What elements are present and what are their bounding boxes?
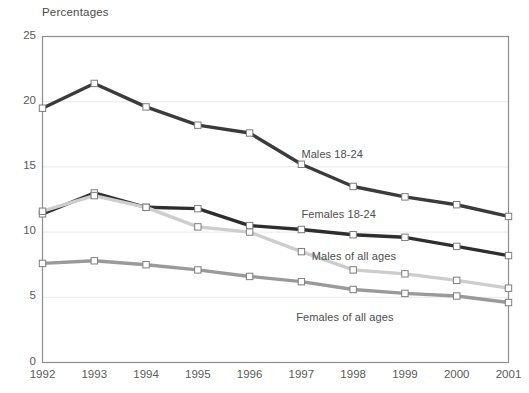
data-point-marker — [246, 229, 252, 235]
data-point-marker — [454, 293, 460, 299]
data-point-marker — [402, 194, 408, 200]
data-point-marker — [505, 213, 511, 219]
series-line-3 — [43, 261, 509, 303]
data-point-marker — [454, 277, 460, 283]
data-point-marker — [143, 104, 149, 110]
data-point-marker — [505, 299, 511, 305]
x-tick-label: 2000 — [444, 368, 470, 380]
data-point-marker — [195, 267, 201, 273]
x-tick-label: 1993 — [81, 368, 107, 380]
data-point-marker — [350, 232, 356, 238]
data-point-marker — [402, 290, 408, 296]
data-point-marker — [505, 252, 511, 258]
data-point-marker — [39, 260, 45, 266]
series-label-2: Males of all ages — [312, 250, 396, 262]
x-tick-label: 1999 — [392, 368, 418, 380]
x-tick-label: 1995 — [185, 368, 211, 380]
x-tick-label: 2001 — [496, 368, 522, 380]
data-point-marker — [91, 192, 97, 198]
x-tick-label: 1994 — [133, 368, 159, 380]
data-point-marker — [298, 161, 304, 167]
data-point-marker — [246, 222, 252, 228]
data-point-marker — [350, 267, 356, 273]
series-label-1: Females 18-24 — [301, 208, 376, 220]
x-tick-label: 1996 — [237, 368, 263, 380]
data-point-marker — [350, 183, 356, 189]
series-label-0: Males 18-24 — [301, 148, 363, 160]
chart-container: Percentages 0510152025 19921993199419951… — [0, 0, 529, 393]
data-point-marker — [402, 234, 408, 240]
y-tick-label: 15 — [2, 159, 36, 171]
data-point-marker — [195, 205, 201, 211]
x-tick-label: 1992 — [30, 368, 56, 380]
series-markers — [39, 80, 511, 305]
data-point-marker — [246, 130, 252, 136]
x-tick-label: 1998 — [340, 368, 366, 380]
data-point-marker — [91, 80, 97, 86]
data-point-marker — [195, 224, 201, 230]
data-point-marker — [39, 105, 45, 111]
data-point-marker — [91, 258, 97, 264]
data-point-marker — [246, 273, 252, 279]
series-lines — [43, 83, 509, 302]
series-label-3: Females of all ages — [296, 311, 393, 323]
x-tick-label: 1997 — [289, 368, 315, 380]
data-point-marker — [298, 278, 304, 284]
data-point-marker — [402, 271, 408, 277]
y-tick-label: 20 — [2, 94, 36, 106]
data-point-marker — [39, 208, 45, 214]
data-point-marker — [298, 226, 304, 232]
data-point-marker — [454, 202, 460, 208]
y-tick-label: 25 — [2, 29, 36, 41]
data-point-marker — [143, 262, 149, 268]
y-tick-label: 10 — [2, 224, 36, 236]
data-point-marker — [195, 122, 201, 128]
plot-canvas — [0, 0, 529, 393]
gridlines — [43, 37, 509, 298]
y-tick-label: 0 — [2, 355, 36, 367]
data-point-marker — [505, 285, 511, 291]
data-point-marker — [143, 204, 149, 210]
data-point-marker — [454, 243, 460, 249]
data-point-marker — [298, 248, 304, 254]
data-point-marker — [350, 286, 356, 292]
y-tick-label: 5 — [2, 289, 36, 301]
